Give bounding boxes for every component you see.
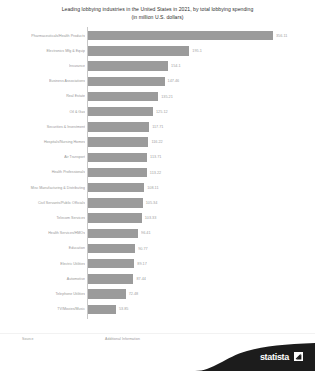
bar-with-value: 116.22 <box>88 135 163 149</box>
bar-with-value: 117.71 <box>88 120 163 134</box>
bar[interactable] <box>88 137 148 146</box>
bar[interactable] <box>88 168 147 177</box>
bar-value-label: 103.33 <box>145 216 157 220</box>
bar-value-label: 87.44 <box>136 277 146 281</box>
table-row: Telecom Services103.33 <box>0 211 315 225</box>
bar-with-value: 125.12 <box>88 105 168 119</box>
bar-category-label: TV/Movies/Music <box>7 307 85 311</box>
bar-value-label: 89.17 <box>137 262 147 266</box>
bar-value-label: 125.12 <box>156 110 168 114</box>
bar-with-value: 356.11 <box>88 29 287 43</box>
bar[interactable] <box>88 244 135 253</box>
bar-value-label: 356.11 <box>276 34 287 38</box>
bar-value-label: 96.41 <box>141 231 151 235</box>
table-row: Real Estate135.21 <box>0 90 315 104</box>
bar[interactable] <box>88 259 134 268</box>
bar-category-label: Business Associations <box>7 79 85 83</box>
bar-with-value: 87.44 <box>88 272 146 286</box>
chart-subtitle: (in million U.S. dollars) <box>18 13 297 21</box>
bar-category-label: Hospitals/Nursing Homes <box>7 140 85 144</box>
bar-value-label: 116.22 <box>151 140 162 144</box>
bar-category-label: Air Transport <box>7 155 85 159</box>
chart-footer: Source Additional Information statista <box>0 333 315 381</box>
bar-with-value: 108.11 <box>88 181 159 195</box>
bar[interactable] <box>88 122 149 131</box>
bar-category-label: Insurance <box>7 64 85 68</box>
bar-category-label: Real Estate <box>7 94 85 98</box>
bar[interactable] <box>88 107 153 116</box>
table-row: Hospitals/Nursing Homes116.22 <box>0 135 315 149</box>
bar-category-label: Civil Servants/Public Officials <box>7 201 85 205</box>
bar-value-label: 105.34 <box>146 201 158 205</box>
bar[interactable] <box>88 289 126 298</box>
chart-title-block: Leading lobbying industries in the Unite… <box>0 0 315 21</box>
bar-with-value: 89.17 <box>88 257 147 271</box>
table-row: Automotive87.44 <box>0 272 315 286</box>
bar-category-label: Education <box>7 246 85 250</box>
bar-with-value: 113.22 <box>88 166 161 180</box>
bar-chart: Pharmaceuticals/Health Products356.11Ele… <box>0 27 315 323</box>
bar-value-label: 195.1 <box>192 49 202 53</box>
table-row: Insurance154.1 <box>0 59 315 73</box>
bar-category-label: Electronics Mfg & Equip <box>7 49 85 53</box>
table-row: Business Associations147.46 <box>0 75 315 89</box>
bar-with-value: 113.71 <box>88 151 161 165</box>
bar[interactable] <box>88 92 158 101</box>
bar-with-value: 154.1 <box>88 59 181 73</box>
bar-with-value: 53.85 <box>88 303 128 317</box>
bar-value-label: 53.85 <box>119 307 129 311</box>
bar-with-value: 147.46 <box>88 75 179 89</box>
bar-value-label: 108.11 <box>147 186 158 190</box>
page-title: Leading lobbying industries in the Unite… <box>18 5 297 13</box>
table-row: Telephone Utilities72.48 <box>0 287 315 301</box>
bar-value-label: 113.22 <box>150 171 161 175</box>
bar-with-value: 135.21 <box>88 90 173 104</box>
bar-with-value: 96.41 <box>88 227 151 241</box>
bar-category-label: Automotive <box>7 277 85 281</box>
bar-value-label: 147.46 <box>168 79 180 83</box>
footer-divider <box>0 333 315 334</box>
bar[interactable] <box>88 77 165 86</box>
table-row: Civil Servants/Public Officials105.34 <box>0 196 315 210</box>
bar-value-label: 113.71 <box>150 155 161 159</box>
additional-information-label[interactable]: Additional Information <box>105 337 140 341</box>
bar-category-label: Health Professionals <box>7 170 85 174</box>
bar-category-label: Electric Utilities <box>7 262 85 266</box>
table-row: Securities & Investment117.71 <box>0 120 315 134</box>
bar-value-label: 117.71 <box>152 125 163 129</box>
bar-category-label: Pharmaceuticals/Health Products <box>7 34 85 38</box>
table-row: TV/Movies/Music53.85 <box>0 303 315 317</box>
bar-value-label: 90.77 <box>138 247 148 251</box>
table-row: Oil & Gas125.12 <box>0 105 315 119</box>
bar-value-label: 154.1 <box>171 64 181 68</box>
table-row: Pharmaceuticals/Health Products356.11 <box>0 29 315 43</box>
bar-with-value: 105.34 <box>88 196 157 210</box>
bar-value-label: 72.48 <box>129 292 139 296</box>
bar[interactable] <box>88 198 143 207</box>
statista-chart-page: Leading lobbying industries in the Unite… <box>0 0 315 381</box>
bar[interactable] <box>88 213 142 222</box>
bar-category-label: Misc Manufacturing & Distributing <box>7 186 85 190</box>
bar[interactable] <box>88 229 138 238</box>
bar-category-label: Health Services/HMOs <box>7 231 85 235</box>
table-row: Health Professionals113.22 <box>0 166 315 180</box>
table-row: Misc Manufacturing & Distributing108.11 <box>0 181 315 195</box>
bar[interactable] <box>88 46 189 55</box>
bar[interactable] <box>88 183 144 192</box>
bar-category-label: Telephone Utilities <box>7 292 85 296</box>
bar-category-label: Securities & Investment <box>7 125 85 129</box>
bar[interactable] <box>88 153 147 162</box>
bar[interactable] <box>88 274 133 283</box>
bar[interactable] <box>88 305 116 314</box>
table-row: Education90.77 <box>0 242 315 256</box>
source-label[interactable]: Source <box>22 337 33 341</box>
bar-value-label: 135.21 <box>161 95 173 99</box>
bar[interactable] <box>88 31 273 40</box>
bar-category-label: Oil & Gas <box>7 110 85 114</box>
statista-logo-text: statista <box>260 352 289 362</box>
bar-with-value: 90.77 <box>88 242 148 256</box>
table-row: Air Transport113.71 <box>0 151 315 165</box>
statista-arrow-mark-icon <box>294 352 303 361</box>
table-row: Health Services/HMOs96.41 <box>0 227 315 241</box>
bar[interactable] <box>88 61 168 70</box>
